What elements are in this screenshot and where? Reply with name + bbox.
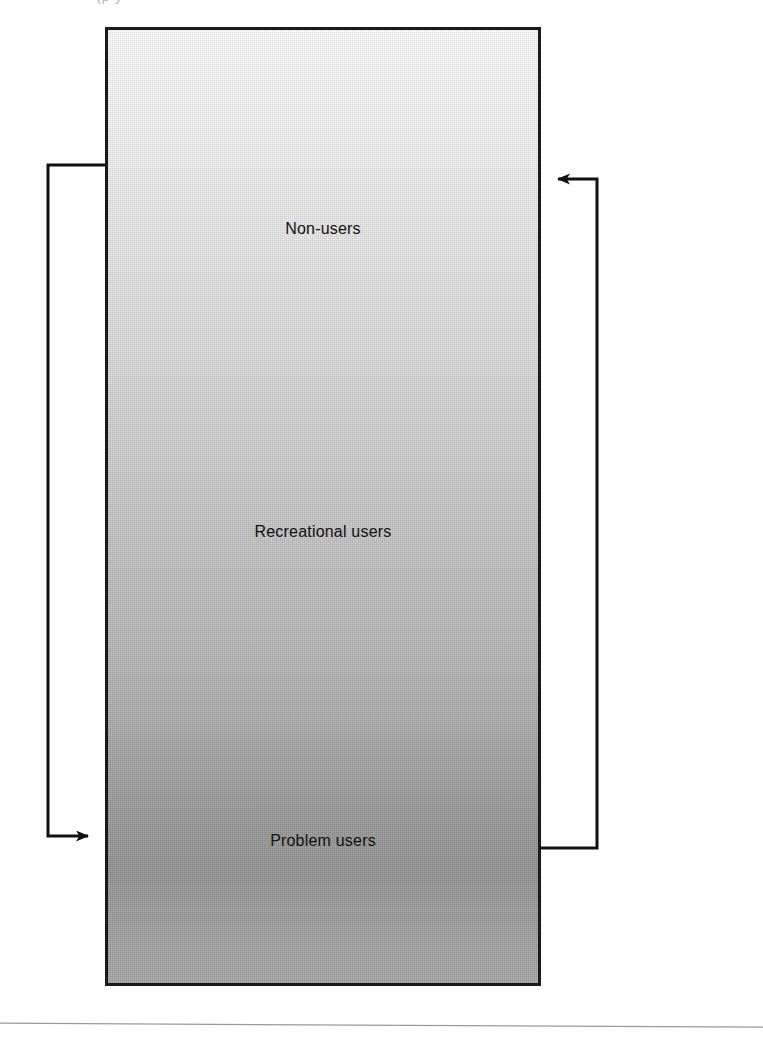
band-label-non-users: Non-users: [108, 220, 538, 238]
band-label-problem-users: Problem users: [108, 832, 538, 850]
page-separator-rule: [0, 1019, 763, 1033]
left-feedback-loop-path: [48, 165, 106, 836]
band-label-recreational-users: Recreational users: [108, 523, 538, 541]
right-feedback-loop-path: [540, 179, 597, 848]
figure-canvas: (p y Non-users Recreational users Proble…: [0, 0, 763, 1063]
